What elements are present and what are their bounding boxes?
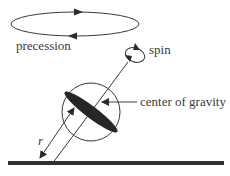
radius-label: r <box>38 133 44 148</box>
precession-arrow-icon <box>74 9 83 16</box>
ground-surface <box>8 161 224 165</box>
spin-arrow-icon <box>133 43 140 50</box>
gyroscope-precession-diagram: precession spin center of gravity r <box>0 0 230 176</box>
center-of-gravity-label: center of gravity <box>140 94 226 109</box>
gyroscope-disk <box>61 87 121 136</box>
precession-loop <box>11 9 139 40</box>
spin-label: spin <box>149 42 171 57</box>
spin-loop <box>123 43 147 65</box>
precession-label: precession <box>16 38 71 53</box>
radius-dimension <box>40 108 74 158</box>
